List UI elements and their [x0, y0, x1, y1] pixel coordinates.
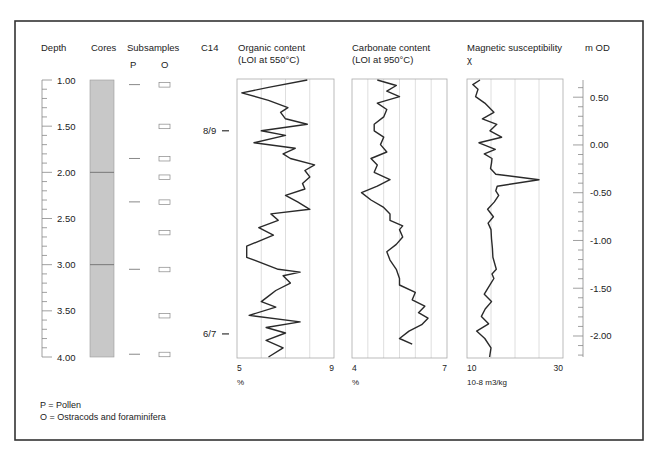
header-carbonate-sub: (LOI at 950°C) [352, 54, 413, 65]
ostracod-sample-mark [159, 83, 170, 88]
c14-date-label: 8/9 [203, 125, 216, 136]
depth-tick-label: 2.50 [57, 213, 76, 224]
x-max-label: 9 [329, 363, 334, 373]
x-min-label: 10 [467, 363, 477, 373]
od-tick-label: 0.50 [590, 92, 609, 103]
depth-tick-label: 1.00 [57, 75, 76, 86]
header-organic: Organic content [238, 42, 305, 53]
depth-tick-label: 1.50 [57, 121, 76, 132]
header-p: P [130, 59, 136, 70]
ostracod-sample-mark [159, 200, 170, 205]
depth-tick-label: 2.00 [57, 167, 76, 178]
c14-date-label: 6/7 [203, 328, 216, 339]
header-subsamples: Subsamples [127, 42, 180, 53]
ostracod-sample-mark [159, 352, 170, 357]
column-headers: Depth Cores Subsamples P O C14 Organic c… [41, 42, 610, 70]
carbonate-content-panel: 47% [352, 79, 447, 387]
organic-content-panel: 59% [237, 79, 334, 387]
x-max-label: 7 [442, 363, 447, 373]
od-axis: 0.500.00-0.50-1.00-1.50-2.00 [573, 80, 612, 357]
core-log-figure: Depth Cores Subsamples P O C14 Organic c… [0, 0, 658, 452]
od-tick-label: -1.50 [590, 283, 612, 294]
ostracod-sample-mark [159, 313, 170, 318]
ostracod-sample-mark [159, 124, 170, 128]
depth-tick-label: 4.00 [57, 352, 76, 363]
depth-axis: 1.001.502.002.503.003.504.00 [42, 75, 76, 363]
data-curve [362, 80, 429, 344]
x-min-label: 5 [237, 363, 242, 373]
cores-column [90, 80, 114, 357]
depth-tick-label: 3.50 [57, 305, 76, 316]
header-c14: C14 [201, 42, 218, 53]
legend: P = Pollen O = Ostracods and foraminifer… [40, 400, 166, 422]
depth-tick-label: 3.00 [57, 259, 76, 270]
ostracod-sample-mark [159, 267, 170, 272]
legend-ostracods: O = Ostracods and foraminifera [40, 412, 166, 422]
od-tick-label: -1.00 [590, 235, 612, 246]
header-o: O [161, 59, 168, 70]
x-unit-label: % [352, 378, 359, 387]
header-od: m OD [585, 42, 610, 53]
od-tick-label: 0.00 [590, 139, 609, 150]
ostracod-sample-mark [159, 156, 170, 161]
core-bar [90, 80, 114, 357]
x-max-label: 30 [554, 363, 564, 373]
subsamples-column [129, 83, 170, 357]
magnetic-susceptibility-panel: 103010-8 m3/kg [467, 79, 563, 387]
header-organic-sub: (LOI at 550°C) [238, 54, 299, 65]
ostracod-sample-mark [159, 230, 170, 235]
header-cores: Cores [91, 42, 117, 53]
c14-column: 8/96/7 [203, 125, 229, 339]
x-unit-label: 10-8 m3/kg [467, 378, 507, 387]
data-curve [242, 80, 315, 357]
header-carbonate: Carbonate content [352, 42, 431, 53]
x-min-label: 4 [352, 363, 357, 373]
legend-pollen: P = Pollen [40, 400, 81, 410]
ostracod-sample-mark [159, 175, 170, 180]
od-tick-label: -0.50 [590, 187, 612, 198]
header-magnetic-sub: χ [467, 54, 472, 65]
header-magnetic: Magnetic susceptibility [467, 42, 562, 53]
data-curve [473, 80, 539, 357]
x-unit-label: % [237, 378, 244, 387]
od-tick-label: -2.00 [590, 330, 612, 341]
header-depth: Depth [41, 42, 66, 53]
